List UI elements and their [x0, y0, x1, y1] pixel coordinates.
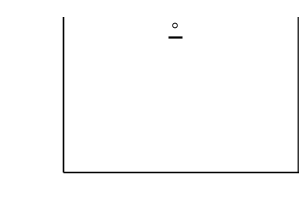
legend-markers [169, 23, 183, 37]
axis-lines [64, 17, 300, 173]
chart-figure [0, 0, 308, 224]
legend-open-circle-icon [173, 23, 178, 28]
plot-area [0, 0, 308, 224]
